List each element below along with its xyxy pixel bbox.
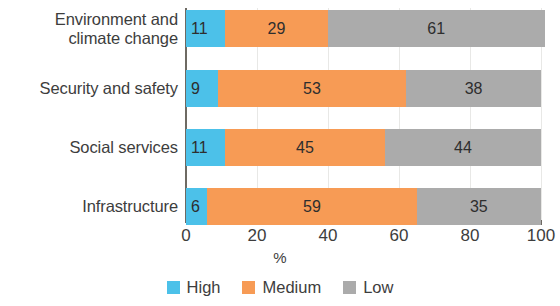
bar-segment-medium: 45 <box>225 129 385 166</box>
bar-segment-medium: 59 <box>207 188 416 225</box>
bar: 95338 <box>186 70 541 107</box>
category-label-line: Security and safety <box>0 79 178 98</box>
bar-segment-high: 6 <box>186 188 207 225</box>
legend-swatch-icon <box>242 281 255 294</box>
category-label-line: Social services <box>0 138 178 157</box>
category-label-line: Infrastructure <box>0 197 178 216</box>
bar: 112961 <box>186 10 545 47</box>
legend-item-low[interactable]: Low <box>343 278 393 297</box>
legend-item-medium[interactable]: Medium <box>242 278 321 297</box>
category-label-line: Environment and <box>0 10 178 29</box>
x-axis-tick-label: 40 <box>319 226 338 246</box>
bar-segment-value: 38 <box>465 80 483 97</box>
category-label: Environment andclimate change <box>0 10 178 48</box>
bar-segment-value: 9 <box>186 70 218 107</box>
bar-segment-low: 35 <box>417 188 541 225</box>
bar-segment-value: 11 <box>186 10 225 47</box>
category-label-line: climate change <box>0 29 178 48</box>
legend-label: Low <box>363 278 393 297</box>
bar-segment-high: 9 <box>186 70 218 107</box>
bar-segment-low: 61 <box>328 10 545 47</box>
category-axis-labels: Environment andclimate changeSecurity an… <box>0 0 178 220</box>
bar-segment-high: 11 <box>186 129 225 166</box>
category-label: Infrastructure <box>0 197 178 216</box>
bar-segment-value: 11 <box>186 129 225 166</box>
bar-segment-value: 53 <box>303 80 321 97</box>
bar: 114544 <box>186 129 541 166</box>
bar-segment-value: 29 <box>268 20 286 37</box>
legend-label: Medium <box>262 278 321 297</box>
bar-segment-value: 59 <box>303 198 321 215</box>
x-axis-title: % <box>0 249 560 266</box>
bar-segment-value: 35 <box>470 198 488 215</box>
x-axis-tick-label: 60 <box>390 226 409 246</box>
bar-segment-value: 61 <box>427 20 445 37</box>
bar-segment-low: 38 <box>406 70 541 107</box>
bar-segment-low: 44 <box>385 129 541 166</box>
bar-segment-medium: 29 <box>225 10 328 47</box>
bar-segment-value: 45 <box>296 139 314 156</box>
category-label: Security and safety <box>0 79 178 98</box>
bar-segment-high: 11 <box>186 10 225 47</box>
chart-legend: HighMediumLow <box>0 278 560 297</box>
bar-segment-value: 6 <box>186 188 207 225</box>
x-axis-tick-label: 80 <box>461 226 480 246</box>
legend-swatch-icon <box>167 281 180 294</box>
bar-segment-medium: 53 <box>218 70 406 107</box>
x-axis-tick-label: 20 <box>248 226 267 246</box>
x-axis-tick <box>541 220 542 225</box>
legend-swatch-icon <box>343 281 356 294</box>
stacked-bar-chart: Environment andclimate changeSecurity an… <box>0 0 560 306</box>
x-axis-tick-label: 100 <box>527 226 555 246</box>
bar: 65935 <box>186 188 541 225</box>
category-label: Social services <box>0 138 178 157</box>
bar-segment-value: 44 <box>454 139 472 156</box>
legend-item-high[interactable]: High <box>167 278 221 297</box>
legend-label: High <box>187 278 221 297</box>
plot-area: 0204060801001129619533811454465935 <box>186 0 541 220</box>
x-axis-tick-label: 0 <box>181 226 190 246</box>
